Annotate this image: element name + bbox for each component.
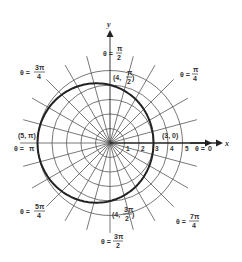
angle-prefix: θ = [176, 218, 186, 225]
y-axis-label: y [106, 20, 111, 29]
angle-den: 2 [117, 54, 121, 61]
point-label-prefix: (4, [112, 211, 120, 219]
grid-radial-line [32, 98, 110, 143]
angle-prefix: θ = [180, 71, 190, 78]
point-label-3-0: (3, 0) [162, 132, 178, 140]
angle-den: 4 [37, 73, 41, 80]
angle-num: π [117, 45, 123, 52]
angle-num: 7π [190, 213, 200, 220]
x-tick-1: 1 [126, 145, 130, 152]
grid-radial-line [65, 65, 110, 143]
x-tick-labels: 1 2 3 4 5 [126, 145, 189, 152]
angle-label-5pi-over-4: θ = 5π 4 [20, 203, 45, 219]
angle-label-pi-over-4: θ = π 4 [180, 66, 199, 82]
grid-radial-line [46, 143, 110, 207]
angle-value: π [29, 145, 35, 152]
angle-label-pi: θ = π [14, 145, 35, 152]
angle-den: 4 [37, 212, 41, 219]
grid-radial-line [32, 143, 110, 188]
frac-den: 2 [125, 215, 129, 222]
angle-label-pi-over-2: θ = π 2 [103, 45, 123, 61]
angle-den: 4 [193, 75, 197, 82]
polar-diagram: x y 1 2 3 4 5 (3, 0) (4, π 2 ) (5, π) (4… [0, 0, 242, 262]
angle-num: 3π [35, 64, 45, 71]
x-axis-label: x [224, 139, 229, 148]
paren-close: ) [132, 74, 134, 82]
angle-label-3pi-over-4: θ = 3π 4 [20, 64, 45, 80]
grid-radial-line [46, 79, 110, 143]
angle-value: 0 [208, 145, 212, 152]
x-tick-2: 2 [141, 145, 145, 152]
angle-label-0: θ = 0 [195, 145, 212, 152]
point-label-5-pi: (5, π) [18, 132, 36, 140]
angle-den: 2 [116, 242, 120, 249]
x-tick-4: 4 [170, 145, 174, 152]
point-label-prefix: (4, [113, 74, 121, 82]
y-axis-arrow-icon [107, 30, 114, 37]
angle-prefix: θ = [101, 238, 111, 245]
angle-prefix: θ = [103, 50, 113, 57]
angle-label-7pi-over-4: θ = 7π 4 [176, 213, 200, 229]
angle-den: 4 [192, 222, 196, 229]
x-axis-arrow-outer-icon [216, 140, 223, 147]
angle-prefix: θ = [14, 145, 24, 152]
grid-radial-line [65, 143, 110, 221]
point-label-4-3pi-over-2: (4, 3π 2 ) [112, 206, 134, 222]
angle-num: π [193, 66, 199, 73]
angle-num: 5π [35, 203, 45, 210]
angle-label-3pi-over-2: θ = 3π 2 [101, 233, 124, 249]
paren-close: ) [132, 211, 134, 219]
angle-prefix: θ = [195, 145, 205, 152]
angle-num: 3π [114, 233, 124, 240]
frac-den: 2 [127, 78, 131, 85]
x-tick-5: 5 [185, 145, 189, 152]
angle-prefix: θ = [20, 208, 30, 215]
angle-prefix: θ = [20, 69, 30, 76]
x-tick-3: 3 [155, 145, 159, 152]
